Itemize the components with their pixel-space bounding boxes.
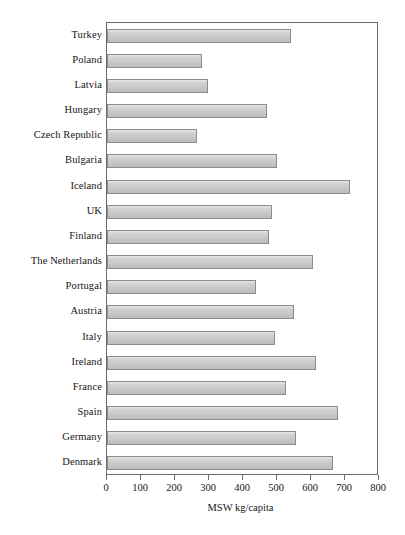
category-label-turkey: Turkey xyxy=(2,29,102,41)
category-label-czech-republic: Czech Republic xyxy=(2,129,102,141)
category-label-austria: Austria xyxy=(2,305,102,317)
bar-fill xyxy=(107,29,291,43)
x-axis-tick-label: 300 xyxy=(200,481,216,495)
bar-germany xyxy=(107,431,379,445)
bar-fill xyxy=(107,431,296,445)
category-label-uk: UK xyxy=(2,205,102,217)
bar-fill xyxy=(107,305,294,319)
bar-fill xyxy=(107,154,277,168)
bar-finland xyxy=(107,230,379,244)
x-axis-tick xyxy=(276,475,277,480)
category-label-bulgaria: Bulgaria xyxy=(2,154,102,166)
bar-fill xyxy=(107,331,275,345)
plot-area xyxy=(106,22,378,475)
x-axis-tick-label: 600 xyxy=(302,481,318,495)
bar-portugal xyxy=(107,280,379,294)
bar-turkey xyxy=(107,29,379,43)
x-axis-tick xyxy=(310,475,311,480)
category-label-poland: Poland xyxy=(2,54,102,66)
bar-fill xyxy=(107,255,313,269)
bar-hungary xyxy=(107,104,379,118)
x-axis-tick xyxy=(106,475,107,480)
x-axis-tick xyxy=(344,475,345,480)
bar-fill xyxy=(107,230,269,244)
bar-fill xyxy=(107,205,272,219)
bar-poland xyxy=(107,54,379,68)
x-axis-title-text: MSW kg/capita xyxy=(207,502,273,513)
bar-fill xyxy=(107,129,197,143)
bar-fill xyxy=(107,79,208,93)
x-axis-tick xyxy=(174,475,175,480)
x-axis-tick-label: 800 xyxy=(370,481,386,495)
bar-ireland xyxy=(107,356,379,370)
x-axis-tick-label: 100 xyxy=(132,481,148,495)
category-label-france: France xyxy=(2,381,102,393)
x-axis-tick xyxy=(208,475,209,480)
bar-fill xyxy=(107,406,338,420)
category-label-spain: Spain xyxy=(2,406,102,418)
x-axis-tick-label: 400 xyxy=(234,481,250,495)
bar-iceland xyxy=(107,180,379,194)
msw-per-capita-bar-chart: TurkeyPolandLatviaHungaryCzech RepublicB… xyxy=(0,0,405,535)
category-label-the-netherlands: The Netherlands xyxy=(2,255,102,267)
bar-fill xyxy=(107,280,256,294)
category-label-latvia: Latvia xyxy=(2,79,102,91)
x-axis-tick-label: 700 xyxy=(336,481,352,495)
category-label-portugal: Portugal xyxy=(2,280,102,292)
category-label-denmark: Denmark xyxy=(2,456,102,468)
bar-the-netherlands xyxy=(107,255,379,269)
bar-spain xyxy=(107,406,379,420)
x-axis-tick xyxy=(242,475,243,480)
bar-austria xyxy=(107,305,379,319)
bar-uk xyxy=(107,205,379,219)
bar-italy xyxy=(107,331,379,345)
category-axis-labels: TurkeyPolandLatviaHungaryCzech RepublicB… xyxy=(0,22,102,475)
x-axis-tick xyxy=(378,475,379,480)
category-label-germany: Germany xyxy=(2,431,102,443)
x-axis-tick-label: 500 xyxy=(268,481,284,495)
bar-fill xyxy=(107,104,267,118)
bar-latvia xyxy=(107,79,379,93)
category-label-ireland: Ireland xyxy=(2,356,102,368)
category-label-iceland: Iceland xyxy=(2,180,102,192)
x-axis-tick-labels: 0100200300400500600700800 xyxy=(0,481,405,497)
bar-france xyxy=(107,381,379,395)
bar-fill xyxy=(107,381,286,395)
category-label-finland: Finland xyxy=(2,230,102,242)
bar-fill xyxy=(107,54,202,68)
x-axis-tick xyxy=(140,475,141,480)
x-axis-tick-label: 0 xyxy=(103,481,108,495)
bar-bulgaria xyxy=(107,154,379,168)
bar-czech-republic xyxy=(107,129,379,143)
bar-denmark xyxy=(107,456,379,470)
bar-fill xyxy=(107,456,333,470)
bar-fill xyxy=(107,180,350,194)
x-axis-title: MSW kg/capita xyxy=(0,502,405,513)
x-axis-tick-label: 200 xyxy=(166,481,182,495)
bar-fill xyxy=(107,356,316,370)
category-label-hungary: Hungary xyxy=(2,104,102,116)
category-label-italy: Italy xyxy=(2,331,102,343)
